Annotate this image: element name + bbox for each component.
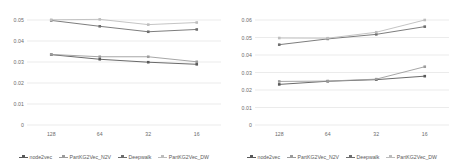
right-chart-panel: 0.060.050.040.030.020.010 128643216 node… <box>228 0 456 163</box>
legend-marker-icon <box>158 155 167 160</box>
legend-marker-icon <box>386 155 395 160</box>
legend-marker-icon <box>346 155 355 160</box>
data-point <box>423 75 426 78</box>
x-axis-tick-label: 16 <box>422 131 428 137</box>
x-axis-tick-label: 128 <box>275 131 284 137</box>
legend-item-deepwalk[interactable]: Deepwalk <box>118 154 151 160</box>
data-point <box>195 63 198 66</box>
legend-marker-icon <box>287 155 296 160</box>
legend-item-deepwalk[interactable]: Deepwalk <box>346 154 379 160</box>
legend-label: PartKG2Vec_DW <box>169 154 209 160</box>
left-chart-panel: 0.050.040.030.020.010 128643216 node2vec… <box>0 0 228 163</box>
right-chart-plot <box>228 0 456 163</box>
series-line-partkg2vec_dw <box>279 20 425 38</box>
legend-item-partkg2vec_dw[interactable]: PartKG2Vec_DW <box>386 154 437 160</box>
x-axis-tick-label: 128 <box>47 131 56 137</box>
legend-label: Deepwalk <box>129 154 152 160</box>
data-point <box>326 80 329 83</box>
legend-label: node2vec <box>30 154 53 160</box>
data-point <box>375 78 378 81</box>
data-point <box>423 25 426 28</box>
legend-label: PartKG2Vec_N2V <box>70 154 112 160</box>
data-point <box>147 61 150 64</box>
x-axis-tick-label: 32 <box>373 131 379 137</box>
data-point <box>98 25 101 28</box>
data-point <box>326 37 329 40</box>
legend-marker-icon <box>19 155 28 160</box>
data-point <box>50 53 53 56</box>
legend-marker-icon <box>59 155 68 160</box>
legend-label: PartKG2Vec_DW <box>397 154 437 160</box>
legend-item-partkg2vec_n2v[interactable]: PartKG2Vec_N2V <box>59 154 111 160</box>
left-chart-plot <box>0 0 228 163</box>
x-axis-tick-label: 64 <box>325 131 331 137</box>
legend-item-partkg2vec_dw[interactable]: PartKG2Vec_DW <box>158 154 209 160</box>
x-axis-tick-label: 64 <box>97 131 103 137</box>
legend-item-node2vec[interactable]: node2vec <box>247 154 280 160</box>
data-point <box>423 19 426 22</box>
data-point <box>195 28 198 31</box>
data-point <box>278 37 281 40</box>
legend-marker-icon <box>247 155 256 160</box>
data-point <box>278 43 281 46</box>
legend-label: Deepwalk <box>357 154 380 160</box>
x-axis-tick-label: 32 <box>145 131 151 137</box>
data-point <box>195 60 198 63</box>
data-point <box>278 80 281 83</box>
legend-item-node2vec[interactable]: node2vec <box>19 154 52 160</box>
legend-item-partkg2vec_n2v[interactable]: PartKG2Vec_N2V <box>287 154 339 160</box>
data-point <box>147 55 150 58</box>
x-axis-tick-label: 16 <box>194 131 200 137</box>
data-point <box>98 55 101 58</box>
figure-two-line-charts: 0.050.040.030.020.010 128643216 node2vec… <box>0 0 456 163</box>
data-point <box>98 58 101 61</box>
data-point <box>278 83 281 86</box>
legend-marker-icon <box>118 155 127 160</box>
right-chart-legend: node2vecPartKG2Vec_N2VDeepwalkPartKG2Vec… <box>228 154 456 160</box>
legend-label: PartKG2Vec_N2V <box>298 154 340 160</box>
data-point <box>147 30 150 33</box>
series-line-partkg2vec_n2v <box>279 67 425 82</box>
data-point <box>423 65 426 68</box>
data-point <box>50 18 53 21</box>
data-point <box>375 31 378 34</box>
data-point <box>98 18 101 21</box>
left-chart-legend: node2vecPartKG2Vec_N2VDeepwalkPartKG2Vec… <box>0 154 228 160</box>
legend-label: node2vec <box>258 154 281 160</box>
data-point <box>147 23 150 26</box>
data-point <box>195 21 198 24</box>
